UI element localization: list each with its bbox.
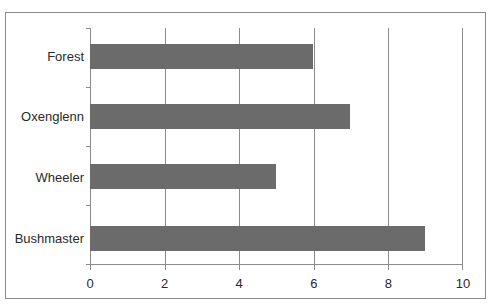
y-tick <box>86 87 90 88</box>
x-tick <box>90 265 91 270</box>
x-tick <box>462 265 463 270</box>
x-tick-label: 0 <box>86 276 93 291</box>
bar-bushmaster <box>90 226 425 251</box>
category-label: Forest <box>47 49 84 64</box>
x-tick <box>314 265 315 270</box>
x-tick <box>388 265 389 270</box>
bar-wheeler <box>90 164 276 189</box>
bar-oxenglenn <box>90 104 350 129</box>
x-tick-label: 6 <box>310 276 317 291</box>
y-tick <box>86 146 90 147</box>
x-tick-label: 4 <box>236 276 243 291</box>
x-tick-label: 2 <box>161 276 168 291</box>
x-tick <box>165 265 166 270</box>
category-label: Bushmaster <box>15 231 84 246</box>
plot-area <box>90 28 463 265</box>
x-tick <box>239 265 240 270</box>
gridline <box>462 28 463 265</box>
category-label: Wheeler <box>36 170 84 185</box>
x-axis <box>90 264 463 265</box>
y-tick <box>86 28 90 29</box>
category-label: Oxenglenn <box>21 109 84 124</box>
x-tick-label: 8 <box>385 276 392 291</box>
bar-forest <box>90 44 313 69</box>
y-tick <box>86 205 90 206</box>
x-tick-label: 10 <box>456 276 470 291</box>
